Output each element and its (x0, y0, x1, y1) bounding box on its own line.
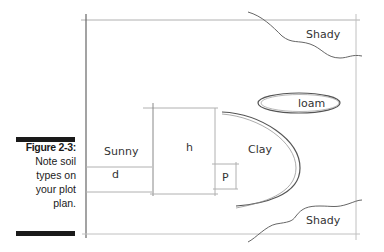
house-label: h (186, 141, 193, 154)
shady-top-label: Shady (306, 28, 341, 41)
deck-label: d (112, 168, 119, 181)
shady-top-boundary (248, 12, 362, 58)
plot-plan-diagram: Shady loam h Sunny d P Clay Shady (0, 0, 384, 252)
loam-label: loam (298, 97, 325, 110)
patio-label: P (222, 171, 229, 184)
clay-zone (222, 112, 300, 206)
sunny-label: Sunny (104, 145, 139, 158)
clay-label: Clay (248, 143, 272, 156)
shady-bottom-label: Shady (306, 214, 341, 227)
shady-bottom-boundary (248, 200, 362, 242)
